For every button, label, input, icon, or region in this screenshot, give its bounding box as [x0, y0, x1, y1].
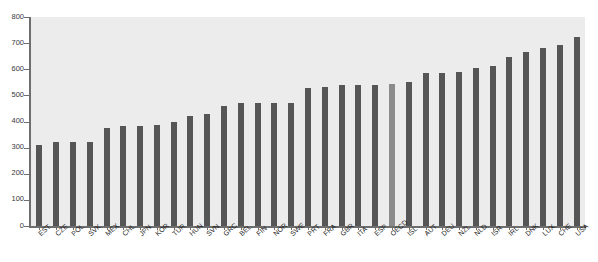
x-tick-label: FIN	[255, 224, 268, 237]
bar-chart: 0100200300400500600700800 ESTCZEPOLSVKME…	[0, 0, 598, 262]
x-tick-label: OECD	[389, 218, 409, 237]
x-tick-label: EST	[37, 223, 52, 237]
x-tick-label: GRC	[222, 222, 238, 238]
x-tick-label: ITA	[356, 225, 368, 237]
x-tick-label: DNK	[524, 222, 540, 237]
x-tick-label: ISL	[406, 225, 418, 237]
x-tick-label: ESP	[373, 223, 388, 238]
x-tick-label: IRL	[507, 225, 520, 237]
x-axis-tick-labels: ESTCZEPOLSVKMEXCHLJPNKORTURHUNSVNGRCBELF…	[0, 0, 598, 262]
x-tick-label: SVK	[87, 223, 102, 238]
x-tick-label: KOR	[154, 222, 170, 237]
x-tick-label: LUX	[541, 223, 556, 237]
x-tick-label: SWE	[289, 221, 306, 237]
x-tick-label: CHE	[557, 222, 573, 237]
x-tick-label: MEX	[104, 222, 120, 237]
x-tick-label: USA	[574, 222, 589, 237]
x-tick-label: BEL	[238, 223, 253, 237]
x-tick-label: FRA	[322, 223, 337, 238]
x-tick-label: NZL	[457, 223, 472, 237]
x-tick-label: GBR	[339, 222, 355, 237]
x-tick-label: NLD	[473, 223, 488, 238]
x-tick-label: CZE	[54, 223, 69, 238]
x-tick-label: HUN	[188, 222, 204, 237]
x-tick-label: PRT	[306, 223, 321, 237]
x-tick-label: TUR	[171, 222, 186, 237]
x-tick-label: SVN	[205, 222, 220, 237]
x-tick-label: AUT	[423, 223, 438, 238]
x-tick-label: NOR	[272, 222, 288, 238]
x-tick-label: CHL	[121, 223, 136, 238]
x-tick-label: ISR	[490, 224, 503, 237]
x-tick-label: DEU	[440, 222, 456, 237]
x-tick-label: JPN	[138, 223, 153, 237]
x-tick-label: POL	[70, 223, 85, 238]
